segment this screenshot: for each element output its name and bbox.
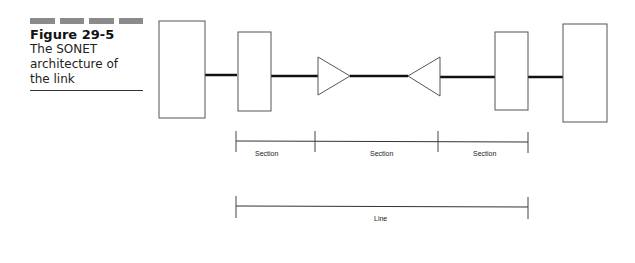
- line-label: Line: [374, 215, 387, 222]
- sonet-diagram: Section Section Section Line: [0, 0, 635, 263]
- terminal-left: [159, 21, 205, 118]
- add-drop-mux-left: [238, 32, 271, 111]
- add-drop-mux-right: [495, 32, 528, 110]
- terminal-right: [563, 24, 607, 122]
- regenerator-left: [408, 57, 440, 96]
- section-label-3: Section: [473, 150, 496, 157]
- section-label-2: Section: [370, 150, 393, 157]
- section-label-1: Section: [255, 150, 278, 157]
- regenerator-right: [318, 57, 350, 95]
